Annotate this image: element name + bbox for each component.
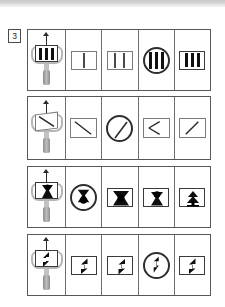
rect-with-2-vertical-bars-icon [107,51,133,70]
zigzag-up-arrow-glyph [36,251,59,268]
page-scan-bar [0,0,225,7]
bar [123,53,125,68]
stamp-tool-row1 [29,31,65,89]
option-cell-row2-b[interactable] [102,97,138,159]
rect-with-double-triangle-tree-icon [179,188,205,207]
option-cell-row1-a[interactable] [66,30,102,90]
question-row-diagonal-lines [27,96,211,160]
question-row-vertical-bars [27,29,211,91]
circle-with-hourglass-icon [70,184,97,211]
slash-line [180,119,205,137]
bar [155,52,158,69]
circle-with-zigzag-down-arrow-icon [143,252,170,279]
rect-with-zigzag-up-arrow-icon [71,256,97,275]
stamp-cell-row3[interactable] [28,167,66,227]
bar [197,53,200,67]
up-arrow-shaft-icon [46,172,47,182]
bowtie-glyph [108,189,134,208]
option-cell-row2-c[interactable] [139,97,175,159]
zigzag-down-arrow-glyph [146,255,166,275]
chevron-left-lines [144,119,169,137]
rect-with-3-vertical-bars-icon [179,51,205,70]
option-cell-row1-c[interactable] [139,30,175,90]
stamp-tool-row2 [29,99,65,157]
option-cell-row2-a[interactable] [66,97,102,159]
bar [185,53,188,67]
rect-with-hourglass-icon [143,188,169,207]
rect-with-horizontal-bowtie-icon [107,188,133,207]
hourglass-glyph [73,187,94,208]
bar [191,53,194,67]
circle-with-slash-diagonal-icon [106,115,133,142]
option-cell-row3-c[interactable] [139,167,175,227]
option-cell-row1-b[interactable] [102,30,138,90]
option-cell-row3-a[interactable] [66,167,102,227]
hourglass-glyph [36,183,59,200]
backslash-line [71,119,96,137]
rect-with-zigzag-up-arrow-icon [179,256,205,275]
question-row-zigzag-arrows [27,234,211,296]
bar [45,48,48,60]
stamp-plate [35,45,58,62]
circle-with-3-vertical-bars-icon [143,47,170,74]
hourglass-glyph [144,189,170,208]
bar [51,48,54,60]
backslash-line [36,113,57,131]
stamp-grip-icon [43,275,50,290]
stamp-cell-row2[interactable] [28,97,66,159]
rect-with-slash-diagonal-icon [179,118,206,138]
rect-with-backslash-diagonal-icon [35,112,58,132]
up-arrow-shaft-icon [46,35,47,45]
zigzag-up-arrow-glyph [180,257,206,276]
option-cell-row3-d[interactable] [175,167,210,227]
bar-group [72,52,96,69]
bar [83,53,85,68]
bar [149,52,152,69]
rect-with-zigzag-up-arrow-icon [35,250,58,267]
rect-with-zigzag-down-arrow-icon [107,256,133,275]
zigzag-up-arrow-glyph [72,257,98,276]
option-cell-row3-b[interactable] [102,167,138,227]
rect-with-left-chevron-icon [143,118,170,138]
stamp-plate [35,182,58,199]
stamp-plate [35,113,58,130]
option-cell-row4-b[interactable] [102,235,138,295]
slash-line [108,117,133,142]
bar-group [36,46,57,61]
option-cell-row4-a[interactable] [66,235,102,295]
stamp-grip-icon [43,70,50,85]
up-arrow-shaft-icon [46,103,47,113]
stamp-tool-row3 [29,168,65,226]
option-cell-row1-d[interactable] [175,30,210,90]
rect-with-3-vertical-bars-icon [35,45,58,62]
rect-with-1-vertical-bar-icon [71,51,97,70]
bar-group [148,52,164,69]
stamp-grip-icon [43,207,50,222]
zigzag-down-arrow-glyph [108,257,134,276]
up-arrow-shaft-icon [46,240,47,250]
rect-with-backslash-diagonal-icon [70,118,97,138]
double-triangle-tree-glyph [180,189,206,208]
option-cell-row2-d[interactable] [175,97,210,159]
question-row-hourglass [27,166,211,228]
stamp-cell-row4[interactable] [28,235,66,295]
option-cell-row4-d[interactable] [175,235,210,295]
option-cell-row4-c[interactable] [139,235,175,295]
bar-group [108,52,132,69]
bar [161,52,164,69]
bar-group [180,52,204,69]
stamp-plate [35,250,58,267]
question-number-label: 3 [8,29,21,43]
bar [114,53,116,68]
stamp-grip-icon [43,138,50,153]
bar [39,48,42,60]
rect-with-hourglass-icon [35,182,58,199]
stamp-tool-row4 [29,236,65,294]
stamp-cell-row1[interactable] [28,30,66,90]
